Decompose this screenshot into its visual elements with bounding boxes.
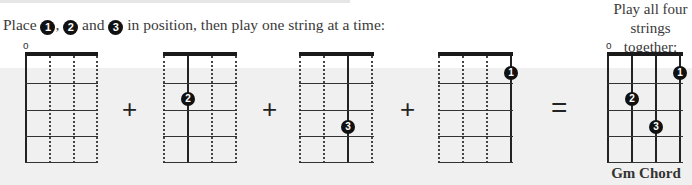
fret-3	[299, 136, 374, 137]
chord-diagram-step-open: o	[25, 52, 98, 164]
chord-diagram-step-finger2: 2	[163, 52, 237, 164]
nut	[25, 52, 98, 56]
chord-diagram-step-finger3: 3	[299, 52, 374, 164]
fret-1	[25, 83, 98, 84]
plus-sign: +	[122, 94, 137, 125]
chord-diagram-full-gm: o 1 2 3	[607, 52, 683, 164]
chord-diagram-step-finger1: 1	[438, 52, 513, 164]
fret-4	[163, 162, 237, 163]
fret-3	[25, 136, 98, 137]
finger-2-badge: 2	[63, 20, 78, 35]
plus-sign: +	[262, 94, 277, 125]
finger-1-dot: 1	[504, 66, 518, 80]
play-together-caption: Play all four strings together:	[609, 0, 692, 57]
fret-1	[299, 83, 374, 84]
nut	[299, 52, 374, 56]
fret-3	[438, 136, 513, 137]
equals-sign: =	[551, 92, 567, 124]
fret-3	[163, 136, 237, 137]
fret-2	[607, 110, 683, 111]
fret-2	[25, 110, 98, 111]
instruction-sep: ,	[55, 16, 63, 33]
fret-1	[607, 83, 683, 84]
fret-1	[163, 83, 237, 84]
open-string-marker: o	[606, 40, 612, 51]
finger-3-dot: 3	[649, 120, 663, 134]
nut	[163, 52, 237, 56]
instruction-sep: and	[78, 16, 108, 33]
finger-3-badge: 3	[108, 20, 123, 35]
fret-2	[438, 110, 513, 111]
finger-1-badge: 1	[40, 20, 55, 35]
finger-3-dot: 3	[341, 120, 355, 134]
fret-4	[438, 162, 513, 163]
finger-1-dot: 1	[673, 66, 687, 80]
fret-2	[163, 110, 237, 111]
chord-name-label: Gm Chord	[607, 165, 685, 182]
nut	[607, 52, 683, 56]
fret-4	[299, 162, 374, 163]
instruction-suffix: in position, then play one string at a t…	[123, 16, 385, 33]
instruction-text: Place 1, 2 and 3 in position, then play …	[3, 16, 385, 35]
nut	[438, 52, 513, 56]
fret-1	[438, 83, 513, 84]
fret-2	[299, 110, 374, 111]
caption-line-1: Play all four	[609, 0, 692, 19]
finger-2-dot: 2	[625, 92, 639, 106]
fret-4	[25, 162, 98, 163]
instruction-prefix: Place	[3, 16, 40, 33]
fret-3	[607, 136, 683, 137]
top-divider	[0, 0, 350, 3]
open-string-marker: o	[23, 40, 29, 51]
fret-4	[607, 162, 683, 163]
plus-sign: +	[400, 94, 415, 125]
finger-2-dot: 2	[181, 92, 195, 106]
